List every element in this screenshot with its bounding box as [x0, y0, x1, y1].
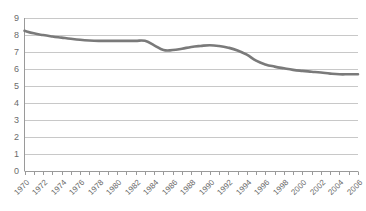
y-axis-tick-label: 5 [5, 82, 19, 91]
y-axis-tick-label: 0 [5, 167, 19, 176]
y-axis-tick-label: 8 [5, 31, 19, 40]
y-axis-tick-label: 4 [5, 99, 19, 108]
y-axis-tick-label: 3 [5, 116, 19, 125]
x-axis-ticks [26, 172, 359, 176]
y-axis-tick-label: 1 [5, 150, 19, 159]
chart-plot-area [0, 0, 366, 211]
y-axis-tick-label: 2 [5, 133, 19, 142]
y-axis-tick-label: 9 [5, 14, 19, 23]
line-chart: 9876543210 19701972197419761978198019821… [0, 0, 366, 211]
y-axis-tick-label: 6 [5, 65, 19, 74]
y-axis-tick-label: 7 [5, 48, 19, 57]
